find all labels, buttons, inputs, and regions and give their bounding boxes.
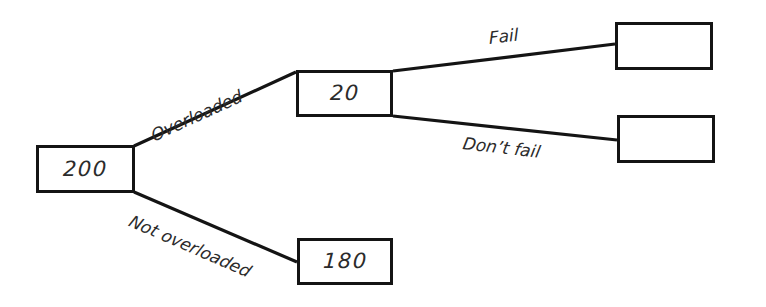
node-overloaded[interactable]: 20: [296, 70, 393, 117]
node-dont-fail-outcome[interactable]: [617, 115, 715, 163]
node-not-overloaded-label: 180: [322, 251, 368, 272]
node-root[interactable]: 200: [36, 145, 135, 193]
decision-tree-diagram: 200 20 180 Overloaded Not overloaded Fai…: [0, 0, 766, 307]
node-fail-outcome[interactable]: [615, 22, 713, 70]
edge-label-fail: Fail: [489, 26, 519, 47]
node-not-overloaded[interactable]: 180: [297, 238, 393, 285]
node-root-label: 200: [63, 159, 109, 180]
node-overloaded-label: 20: [329, 83, 360, 104]
